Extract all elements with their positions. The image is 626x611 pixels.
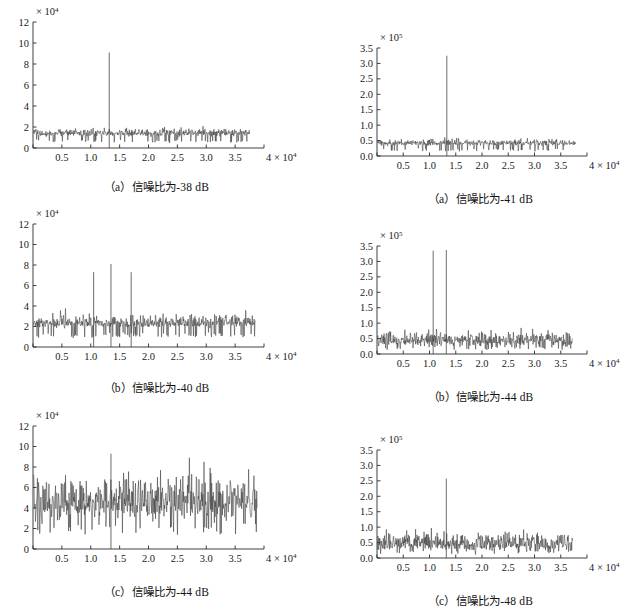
plot-area-c-right: 0.00.51.01.52.02.53.03.5× 1050.51.01.52.…: [335, 430, 623, 590]
x-tick-label: 1.0: [423, 358, 436, 369]
chart-svg: 0.00.51.01.52.02.53.03.5× 1050.51.01.52.…: [335, 430, 623, 590]
x-tick-label: 4 × 104: [266, 350, 297, 362]
x-tick-label: 1.0: [84, 152, 97, 163]
y-tick-label: 2: [24, 122, 29, 133]
plot-area-a-left: 024681012× 1040.51.01.52.02.53.03.54 × 1…: [0, 2, 300, 180]
y-tick-label: 0.0: [360, 553, 373, 564]
y-tick-label: 12: [19, 219, 30, 230]
x-tick-label: 2.5: [171, 351, 184, 362]
svg-text:× 105: × 105: [380, 434, 403, 446]
x-tick-label: 3.0: [528, 562, 541, 573]
y-tick-label: 8: [24, 260, 29, 271]
x-tick-label: 4 × 104: [266, 552, 297, 564]
x-tick-label: 1.0: [84, 351, 97, 362]
y-tick-label: 3.5: [360, 43, 373, 54]
chart-caption-b-left: （b）信噪比为-40 dB: [0, 379, 313, 395]
chart-svg: 0.00.51.01.52.02.53.03.5× 1050.51.01.52.…: [335, 226, 623, 386]
y-tick-label: 10: [19, 239, 30, 250]
x-tick-label: 2.5: [171, 152, 184, 163]
y-tick-label: 2.5: [360, 271, 373, 282]
chart-caption-c-left: （c）信噪比为-44 dB: [0, 583, 313, 599]
y-tick-label: 1.5: [360, 506, 373, 517]
y-axis-exponent: × 105: [380, 32, 403, 44]
x-tick-label: 2.0: [142, 553, 155, 564]
x-axis-ticks: 0.51.01.52.02.53.03.54 × 104: [33, 145, 297, 163]
y-tick-label: 0.5: [360, 333, 373, 344]
plot-area-b-right: 0.00.51.01.52.02.53.03.5× 1050.51.01.52.…: [335, 226, 623, 386]
y-tick-label: 3.5: [360, 445, 373, 456]
y-tick-label: 0.0: [360, 349, 373, 360]
x-tick-label: 4 × 104: [589, 357, 620, 369]
y-tick-label: 3.5: [360, 241, 373, 252]
x-tick-label: 3.5: [554, 358, 567, 369]
x-tick-label: 3.5: [229, 152, 242, 163]
chart-panel-c-right: 0.00.51.01.52.02.53.03.5× 1050.51.01.52.…: [313, 402, 626, 611]
spectrum-trace: [378, 328, 573, 350]
chart-panel-b-left: 024681012× 1040.51.01.52.02.53.03.54 × 1…: [0, 204, 313, 402]
chart-panel-a-right: 0.00.51.01.52.02.53.03.5× 1050.51.01.52.…: [313, 0, 626, 204]
y-tick-label: 10: [19, 441, 30, 452]
x-tick-label: 0.5: [55, 152, 68, 163]
x-tick-label: 2.0: [475, 160, 488, 171]
y-tick-label: 4: [24, 503, 30, 514]
x-tick-label: 3.0: [528, 358, 541, 369]
x-tick-label: 1.5: [449, 358, 462, 369]
peak-markers: [94, 264, 132, 347]
y-tick-label: 8: [24, 59, 29, 70]
x-tick-label: 3.5: [554, 562, 567, 573]
axes: [377, 48, 587, 156]
y-axis-exponent: × 104: [36, 208, 59, 220]
chart-panel-b-right: 0.00.51.01.52.02.53.03.5× 1050.51.01.52.…: [313, 204, 626, 402]
axes: [33, 22, 264, 148]
y-tick-label: 0.0: [360, 151, 373, 162]
x-tick-label: 4 × 104: [589, 561, 620, 573]
y-tick-label: 0.5: [360, 537, 373, 548]
x-tick-label: 0.5: [397, 358, 410, 369]
y-tick-label: 2: [24, 321, 29, 332]
x-tick-label: 0.5: [55, 351, 68, 362]
x-tick-label: 2.0: [475, 562, 488, 573]
plot-area-b-left: 024681012× 1040.51.01.52.02.53.03.54 × 1…: [0, 204, 300, 379]
x-tick-label: 1.0: [423, 562, 436, 573]
y-tick-label: 2.5: [360, 73, 373, 84]
y-axis-ticks: 024681012: [19, 421, 37, 555]
x-tick-label: 2.0: [142, 351, 155, 362]
y-tick-label: 12: [19, 17, 30, 28]
y-tick-label: 2.5: [360, 475, 373, 486]
spectrum-trace: [378, 137, 576, 151]
y-tick-label: 3.0: [360, 460, 373, 471]
x-tick-label: 4 × 104: [589, 159, 620, 171]
chart-caption-a-left: （a）信噪比为-38 dB: [0, 178, 313, 194]
svg-text:× 105: × 105: [380, 32, 403, 44]
x-tick-label: 0.5: [397, 562, 410, 573]
x-tick-label: 3.0: [200, 553, 213, 564]
y-axis-exponent: × 104: [36, 6, 59, 18]
x-tick-label: 3.0: [200, 152, 213, 163]
svg-text:× 104: × 104: [36, 6, 59, 18]
y-tick-label: 1.0: [360, 522, 373, 533]
x-tick-label: 2.5: [502, 160, 515, 171]
x-tick-label: 2.5: [502, 562, 515, 573]
x-tick-label: 0.5: [55, 553, 68, 564]
y-tick-label: 4: [24, 101, 30, 112]
spectrum-trace: [34, 458, 257, 535]
figure-grid: 024681012× 1040.51.01.52.02.53.03.54 × 1…: [0, 0, 626, 611]
x-tick-label: 3.0: [528, 160, 541, 171]
y-tick-label: 0: [24, 342, 29, 353]
chart-svg: 024681012× 1040.51.01.52.02.53.03.54 × 1…: [0, 2, 300, 180]
y-axis-ticks: 024681012: [19, 219, 37, 353]
axes: [33, 224, 264, 347]
x-tick-label: 3.5: [554, 160, 567, 171]
y-tick-label: 1.0: [360, 120, 373, 131]
svg-text:× 105: × 105: [380, 230, 403, 242]
svg-text:× 104: × 104: [36, 410, 59, 422]
x-axis-ticks: 0.51.01.52.02.53.03.54 × 104: [377, 351, 620, 369]
x-axis-ticks: 0.51.01.52.02.53.03.54 × 104: [33, 546, 297, 564]
axes: [377, 246, 587, 354]
y-tick-label: 3.0: [360, 256, 373, 267]
x-tick-label: 1.0: [423, 160, 436, 171]
y-tick-label: 2: [24, 523, 29, 534]
x-tick-label: 1.0: [84, 553, 97, 564]
axes: [33, 426, 264, 549]
spectrum-trace: [378, 528, 573, 555]
